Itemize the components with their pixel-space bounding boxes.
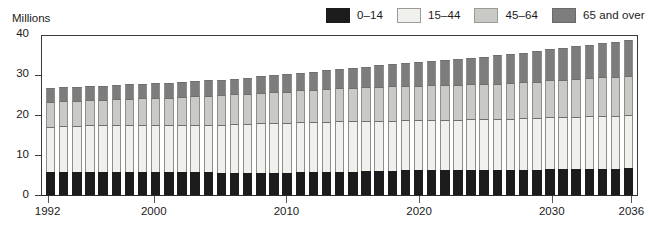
stacked-bar[interactable] <box>177 82 186 195</box>
stacked-bar[interactable] <box>585 45 594 196</box>
bar-segment <box>282 173 291 195</box>
bar-segment <box>545 169 554 195</box>
stacked-bar[interactable] <box>46 88 55 195</box>
bar-segment <box>624 115 633 169</box>
stacked-bar[interactable] <box>388 64 397 195</box>
bar-segment <box>414 86 423 121</box>
stacked-bar[interactable] <box>322 70 331 195</box>
stacked-bar[interactable] <box>414 62 423 195</box>
stacked-bar[interactable] <box>558 48 567 195</box>
bar-segment <box>361 171 370 195</box>
stacked-bar[interactable] <box>230 79 239 195</box>
bar-segment <box>190 96 199 125</box>
bar-segment <box>59 101 68 126</box>
bar-segment <box>401 86 410 120</box>
bar-segment <box>59 172 68 195</box>
bar-segment <box>85 100 94 125</box>
stacked-bar[interactable] <box>217 80 226 195</box>
bar-segment <box>269 123 278 173</box>
bar-segment <box>571 169 580 195</box>
bar-series-container <box>42 36 637 195</box>
bar-segment <box>598 77 607 115</box>
bar-segment <box>585 116 594 169</box>
bar-segment <box>112 125 121 171</box>
stacked-bar[interactable] <box>466 58 475 195</box>
bar-segment <box>571 117 580 170</box>
bar-segment <box>309 122 318 172</box>
bar-slot <box>57 36 70 195</box>
bar-segment <box>493 84 502 119</box>
legend-item-65-and-over: 65 and over <box>552 8 645 23</box>
stacked-bar[interactable] <box>98 86 107 195</box>
bar-segment <box>204 96 213 125</box>
bar-slot <box>294 36 307 195</box>
stacked-bar[interactable] <box>545 49 554 195</box>
bar-segment <box>164 172 173 195</box>
stacked-bar[interactable] <box>493 55 502 195</box>
bar-segment <box>256 93 265 124</box>
bar-segment <box>72 172 81 195</box>
bar-segment <box>479 119 488 170</box>
stacked-bar[interactable] <box>440 60 449 195</box>
bar-slot <box>583 36 596 195</box>
stacked-bar[interactable] <box>624 40 633 195</box>
bar-slot <box>83 36 96 195</box>
stacked-bar[interactable] <box>374 65 383 195</box>
stacked-bar[interactable] <box>282 74 291 195</box>
bar-segment <box>493 170 502 195</box>
bar-segment <box>138 98 147 125</box>
stacked-bar[interactable] <box>427 61 436 195</box>
bar-segment <box>309 90 318 122</box>
stacked-bar[interactable] <box>571 46 580 195</box>
bar-segment <box>466 58 475 85</box>
y-axis-label-30: 30 <box>3 67 29 79</box>
stacked-bar[interactable] <box>204 80 213 195</box>
stacked-bar[interactable] <box>190 81 199 195</box>
stacked-bar[interactable] <box>335 69 344 195</box>
x-axis-tick-2020 <box>419 196 420 203</box>
legend-label-0-14: 0–14 <box>357 9 383 21</box>
bar-segment <box>269 173 278 195</box>
stacked-bar[interactable] <box>85 86 94 195</box>
stacked-bar[interactable] <box>256 76 265 195</box>
stacked-bar[interactable] <box>269 75 278 195</box>
stacked-bar[interactable] <box>164 83 173 195</box>
x-axis-label-2030: 2030 <box>522 205 582 217</box>
stacked-bar[interactable] <box>151 83 160 195</box>
stacked-bar[interactable] <box>348 68 357 195</box>
bar-segment <box>112 172 121 195</box>
stacked-bar[interactable] <box>243 78 252 196</box>
stacked-bar[interactable] <box>309 72 318 195</box>
stacked-bar[interactable] <box>138 84 147 195</box>
stacked-bar[interactable] <box>479 57 488 195</box>
stacked-bar[interactable] <box>125 84 134 195</box>
stacked-bar[interactable] <box>296 73 305 195</box>
bar-segment <box>217 95 226 124</box>
x-axis-tick-1992 <box>48 196 49 203</box>
y-axis-label-20: 20 <box>3 108 29 120</box>
bar-segment <box>282 92 291 123</box>
stacked-bar[interactable] <box>453 59 462 195</box>
bar-slot <box>333 36 346 195</box>
bar-segment <box>388 64 397 86</box>
legend-item-15-44: 15–44 <box>397 8 460 23</box>
stacked-bar[interactable] <box>611 42 620 195</box>
stacked-bar[interactable] <box>361 67 370 195</box>
bar-segment <box>532 170 541 195</box>
stacked-bar[interactable] <box>72 87 81 195</box>
bar-segment <box>151 83 160 97</box>
stacked-bar[interactable] <box>401 63 410 195</box>
bar-segment <box>374 171 383 195</box>
bar-segment <box>374 65 383 86</box>
stacked-bar[interactable] <box>112 85 121 195</box>
bar-slot <box>215 36 228 195</box>
bar-slot <box>241 36 254 195</box>
stacked-bar[interactable] <box>532 51 541 195</box>
stacked-bar[interactable] <box>598 43 607 195</box>
stacked-bar[interactable] <box>519 53 528 195</box>
stacked-bar[interactable] <box>506 54 515 195</box>
bar-segment <box>388 171 397 195</box>
bar-slot <box>438 36 451 195</box>
stacked-bar[interactable] <box>59 87 68 195</box>
bar-segment <box>519 82 528 118</box>
